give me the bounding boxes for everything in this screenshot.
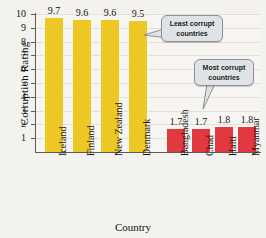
least-corrupt-callout: Least corrupt countries: [161, 15, 223, 42]
y-axis-tick-label: 10: [2, 9, 26, 19]
most-corrupt-callout-line2: countries: [197, 73, 251, 83]
y-axis-tick-label: 1: [2, 133, 26, 143]
least-corrupt-callout-line2: countries: [164, 29, 220, 39]
x-axis-label-haiti: Haiti: [228, 136, 238, 156]
y-axis-tick-label: 6: [2, 64, 26, 74]
x-axis-title: Country: [0, 222, 266, 233]
x-axis-label-denmark: Denmark: [142, 119, 152, 156]
y-axis-tick-label: 2: [2, 119, 26, 129]
bar-value-label: 9.6: [96, 8, 124, 18]
y-axis-tick-label: 9: [2, 23, 26, 33]
y-axis-tick-label: 4: [2, 92, 26, 102]
gridline: [36, 97, 260, 98]
x-axis-label-finland: Finland: [86, 125, 96, 156]
y-axis-tick-label: 3: [2, 106, 26, 116]
bar-value-label: 9.7: [40, 6, 68, 16]
x-axis-label-myanmar: Myanmar: [251, 117, 261, 156]
gridline: [36, 55, 260, 56]
y-axis-tick-label: 5: [2, 78, 26, 88]
most-corrupt-callout-line1: Most corrupt: [197, 63, 251, 73]
x-axis-label-bangladesh: Bangladesh: [180, 109, 190, 156]
x-axis-label-new-zealand: New Zealand: [114, 102, 124, 156]
least-corrupt-callout-line1: Least corrupt: [164, 19, 220, 29]
bar-value-label: 9.5: [124, 9, 152, 19]
y-axis-tick-label: 7: [2, 50, 26, 60]
x-axis-label-chad: Chad: [205, 135, 215, 156]
gridline: [36, 111, 260, 112]
most-corrupt-callout-tail: [196, 82, 218, 112]
x-axis-label-iceland: Iceland: [58, 127, 68, 156]
y-axis-tick-label: 8: [2, 37, 26, 47]
bar-value-label: 9.6: [68, 8, 96, 18]
most-corrupt-callout: Most corrupt countries: [194, 59, 254, 86]
chart-screenshot: Corruption Rating 10987654321 9.79.69.69…: [0, 0, 266, 238]
